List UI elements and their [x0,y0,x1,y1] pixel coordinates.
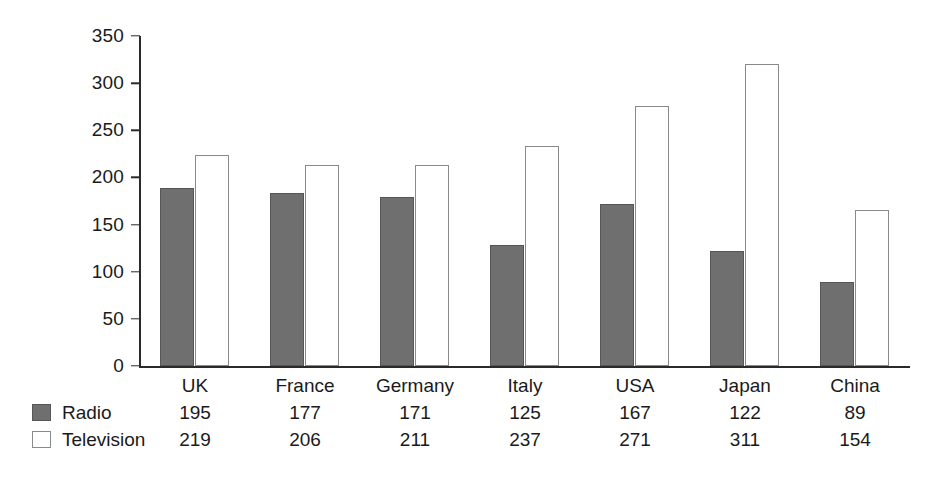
value-television: 154 [800,426,910,453]
y-axis-tick-label: 350 [92,25,124,47]
value-television: 271 [580,426,690,453]
bar-group [250,36,360,366]
bar-television [855,210,889,367]
value-radio: 122 [690,399,800,426]
bar-group [140,36,250,366]
bar-radio [600,204,634,366]
category-label: France [250,372,360,399]
value-television: 211 [360,426,470,453]
value-radio: 195 [140,399,250,426]
y-axis-tick-mark [131,271,140,272]
bar-radio [160,188,194,366]
y-axis-tick-label: 150 [92,214,124,236]
y-axis-tick-label: 50 [102,308,124,330]
bar-radio [820,282,854,366]
bar-radio [380,197,414,366]
bar-group [360,36,470,366]
bar-radio [490,245,524,366]
category-label: USA [580,372,690,399]
y-axis-tick-label: 100 [92,261,124,283]
bar-television [745,64,779,366]
y-axis-tick-mark [131,224,140,225]
y-axis-tick-mark [131,35,140,36]
value-radio: 125 [470,399,580,426]
bar-television [195,155,229,366]
category-label: Italy [470,372,580,399]
y-axis-tick-label: 200 [92,166,124,188]
value-television: 237 [470,426,580,453]
value-radio: 177 [250,399,360,426]
table-column: UK195219 [140,372,250,453]
bar-television [635,106,669,366]
data-table: UK195219France177206Germany171211Italy12… [0,372,937,472]
bar-group [470,36,580,366]
bar-group [800,36,910,366]
y-axis-tick-mark [131,318,140,319]
bar-radio [270,193,304,366]
value-radio: 167 [580,399,690,426]
x-axis-line [139,366,910,368]
table-column: Japan122311 [690,372,800,453]
y-axis-tick-mark [131,82,140,83]
value-television: 311 [690,426,800,453]
bar-television [305,165,339,366]
y-axis-tick-mark [131,130,140,131]
table-column: France177206 [250,372,360,453]
y-axis-tick-label: 300 [92,72,124,94]
table-column: USA167271 [580,372,690,453]
value-television: 219 [140,426,250,453]
table-column: Germany171211 [360,372,470,453]
category-label: Germany [360,372,470,399]
bar-radio [710,251,744,366]
category-label: Japan [690,372,800,399]
plot-area: 350300250200150100500 [140,36,910,366]
bar-chart-figure: 350300250200150100500 Radio Television U… [0,0,937,479]
value-radio: 89 [800,399,910,426]
category-label: UK [140,372,250,399]
bar-group [690,36,800,366]
y-axis-tick-mark [131,177,140,178]
y-axis-tick-mark [131,365,140,366]
value-television: 206 [250,426,360,453]
value-radio: 171 [360,399,470,426]
table-column: Italy125237 [470,372,580,453]
y-axis-tick-label: 250 [92,119,124,141]
category-label: China [800,372,910,399]
table-column: China89154 [800,372,910,453]
bar-television [525,146,559,366]
bar-television [415,165,449,366]
bar-group [580,36,690,366]
